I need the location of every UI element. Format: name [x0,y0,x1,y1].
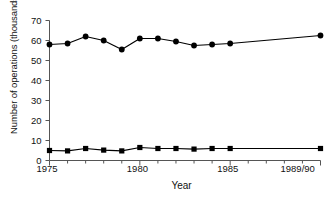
data-point-upper-series-4 [119,47,125,53]
data-point-upper-series-8 [191,43,197,49]
data-point-lower-series-0 [47,148,52,153]
x-axis-title-wrap: Year [0,180,335,191]
data-point-lower-series-7 [173,146,178,151]
data-point-lower-series-11 [318,146,323,151]
data-point-upper-series-0 [47,42,53,48]
data-point-lower-series-2 [83,146,88,151]
data-point-lower-series-6 [155,146,160,151]
data-point-upper-series-2 [83,34,89,40]
x-axis-title: Year [171,180,191,191]
data-point-upper-series-5 [137,36,143,42]
series-line-upper-series [50,36,321,50]
data-point-lower-series-3 [101,148,106,153]
data-point-upper-series-10 [227,41,233,47]
chart-container: Number of operations (thousands) 0102030… [0,0,335,197]
data-point-lower-series-1 [65,148,70,153]
data-point-lower-series-10 [228,146,233,151]
data-point-upper-series-3 [101,38,107,44]
data-point-upper-series-6 [155,36,161,42]
data-point-lower-series-9 [210,146,215,151]
data-point-upper-series-11 [318,33,324,39]
data-point-lower-series-5 [137,145,142,150]
series-line-lower-series [50,148,321,151]
plot-area [0,0,335,197]
data-point-upper-series-7 [173,39,179,45]
data-point-lower-series-8 [191,147,196,152]
data-point-lower-series-4 [119,148,124,153]
data-point-upper-series-1 [65,41,71,47]
data-point-upper-series-9 [209,42,215,48]
